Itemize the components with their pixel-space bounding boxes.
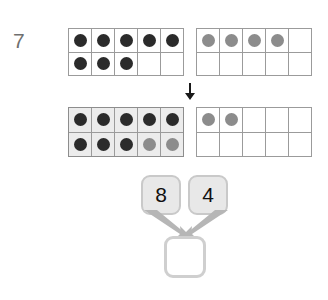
counter-light-icon [202, 113, 215, 126]
ten-frame-cell[interactable] [160, 108, 183, 132]
arrow-down-icon [180, 82, 200, 102]
ten-frame-cell-empty[interactable] [219, 133, 242, 157]
counter-empty-icon [225, 138, 238, 151]
counter-light-icon [225, 34, 238, 47]
counter-empty-icon [248, 113, 261, 126]
ten-frame-cell-empty[interactable] [288, 53, 311, 76]
counter-dark-icon [143, 34, 156, 47]
worksheet-problem: 7 [0, 0, 328, 300]
ten-frame-cell-empty[interactable] [288, 29, 311, 52]
ten-frame-cell[interactable] [69, 29, 91, 52]
counter-empty-icon [294, 138, 307, 151]
ten-frame-cell-empty[interactable] [160, 53, 183, 76]
ten-frame-cell-empty[interactable] [242, 133, 265, 157]
counter-light-icon [143, 138, 156, 151]
ten-frame-bottom-right[interactable] [196, 107, 312, 157]
counter-dark-icon [120, 34, 133, 47]
counter-empty-icon [294, 113, 307, 126]
sum-answer-box[interactable] [164, 236, 206, 278]
counter-light-icon [225, 113, 238, 126]
counter-dark-icon [74, 34, 87, 47]
counter-empty-icon [271, 57, 284, 70]
ten-frame-cell[interactable] [160, 29, 183, 52]
counter-light-icon [166, 138, 179, 151]
ten-frame-row [69, 108, 183, 132]
ten-frame-cell-empty[interactable] [242, 53, 265, 76]
ten-frame-row [69, 29, 183, 52]
ten-frame-top-right[interactable] [196, 28, 312, 76]
counter-dark-icon [143, 113, 156, 126]
counter-dark-icon [97, 34, 110, 47]
ten-frame-cell[interactable] [197, 108, 219, 132]
counter-dark-icon [97, 57, 110, 70]
counter-dark-icon [120, 57, 133, 70]
counter-dark-icon [166, 113, 179, 126]
question-number: 7 [13, 30, 25, 51]
ten-frame-cell[interactable] [219, 108, 242, 132]
counter-light-icon [271, 34, 284, 47]
ten-frame-cell[interactable] [219, 29, 242, 52]
ten-frame-cell[interactable] [242, 29, 265, 52]
counter-light-icon [248, 34, 261, 47]
counter-dark-icon [166, 34, 179, 47]
ten-frame-row [197, 132, 311, 157]
ten-frame-cell-empty[interactable] [265, 108, 288, 132]
ten-frame-row [69, 132, 183, 157]
ten-frame-row [69, 52, 183, 76]
ten-frame-row [197, 52, 311, 76]
ten-frame-cell-empty[interactable] [197, 133, 219, 157]
ten-frame-cell-empty[interactable] [137, 53, 160, 76]
counter-empty-icon [225, 57, 238, 70]
ten-frame-bottom-left[interactable] [68, 107, 184, 157]
counter-dark-icon [120, 138, 133, 151]
counter-dark-icon [97, 138, 110, 151]
ten-frame-cell[interactable] [137, 29, 160, 52]
counter-empty-icon [248, 57, 261, 70]
ten-frame-cell[interactable] [265, 29, 288, 52]
ten-frame-cell[interactable] [114, 108, 137, 132]
counter-dark-icon [120, 113, 133, 126]
counter-empty-icon [143, 57, 156, 70]
counter-light-icon [202, 34, 215, 47]
ten-frame-cell[interactable] [91, 29, 114, 52]
counter-dark-icon [74, 138, 87, 151]
counter-empty-icon [294, 57, 307, 70]
counter-empty-icon [271, 113, 284, 126]
ten-frame-cell[interactable] [91, 53, 114, 76]
ten-frame-cell-empty[interactable] [288, 133, 311, 157]
ten-frame-cell[interactable] [197, 29, 219, 52]
ten-frame-top-left[interactable] [68, 28, 184, 76]
ten-frame-cell[interactable] [160, 133, 183, 157]
ten-frame-cell-empty[interactable] [265, 53, 288, 76]
counter-dark-icon [74, 113, 87, 126]
ten-frame-cell-empty[interactable] [197, 53, 219, 76]
counter-empty-icon [202, 138, 215, 151]
ten-frame-cell[interactable] [69, 53, 91, 76]
ten-frame-cell[interactable] [137, 133, 160, 157]
counter-empty-icon [271, 138, 284, 151]
counter-empty-icon [166, 57, 179, 70]
counter-empty-icon [202, 57, 215, 70]
counter-empty-icon [248, 138, 261, 151]
counter-empty-icon [294, 34, 307, 47]
ten-frame-cell[interactable] [69, 108, 91, 132]
ten-frame-row [197, 108, 311, 132]
ten-frame-cell[interactable] [137, 108, 160, 132]
ten-frame-cell-empty[interactable] [242, 108, 265, 132]
counter-dark-icon [97, 113, 110, 126]
ten-frame-cell-empty[interactable] [265, 133, 288, 157]
ten-frame-cell[interactable] [114, 53, 137, 76]
ten-frame-cell[interactable] [114, 29, 137, 52]
counter-dark-icon [74, 57, 87, 70]
ten-frame-cell-empty[interactable] [219, 53, 242, 76]
ten-frame-cell[interactable] [114, 133, 137, 157]
ten-frame-cell[interactable] [69, 133, 91, 157]
ten-frame-row [197, 29, 311, 52]
ten-frame-cell[interactable] [91, 133, 114, 157]
ten-frame-cell[interactable] [91, 108, 114, 132]
ten-frame-cell-empty[interactable] [288, 108, 311, 132]
addend-box-1[interactable]: 8 [141, 175, 181, 215]
addend-box-2[interactable]: 4 [188, 175, 228, 215]
